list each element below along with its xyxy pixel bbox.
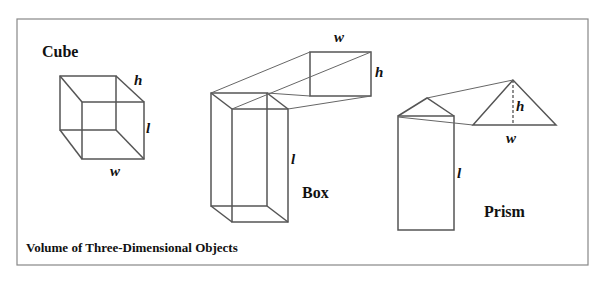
cube-figure [60, 76, 144, 159]
prism-l-label: l [457, 165, 462, 181]
prism-label: Prism [484, 203, 526, 220]
box-figure [211, 52, 371, 222]
cube-h-label: h [134, 72, 142, 88]
box-w-label: w [334, 29, 345, 45]
prism-w-label: w [506, 130, 517, 146]
prism-h-label: h [516, 98, 524, 114]
cube-w-label: w [110, 163, 121, 179]
prism-figure [398, 80, 556, 230]
cube-label: Cube [42, 43, 78, 60]
box-h-label: h [375, 64, 383, 80]
box-l-label: l [291, 151, 296, 167]
diagram-caption: Volume of Three-Dimensional Objects [26, 240, 238, 255]
box-label: Box [302, 184, 329, 201]
diagram-frame [17, 19, 588, 265]
cube-l-label: l [146, 120, 151, 136]
volume-diagram: Cube h l w w h l Box h w l Prism Volume … [0, 0, 604, 283]
